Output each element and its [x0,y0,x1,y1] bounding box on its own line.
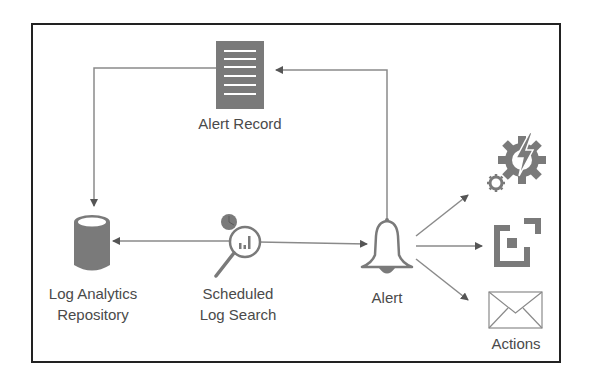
repository-label-line1: Log Analytics [37,283,149,305]
webhook-frame-icon [494,218,541,267]
log-search-label-line2: Log Search [183,304,293,326]
alert-record-label: Alert Record [180,113,300,135]
edge-alert-to-email [416,259,468,300]
automation-gear-lightning-icon [487,132,546,192]
edge-alert-to-record [276,70,387,228]
document-lines-icon [216,41,264,109]
connectors [94,68,482,300]
database-cylinder-icon [74,215,110,271]
diagram-canvas [0,0,592,384]
email-envelope-icon [489,292,542,328]
edge-alert-to-automation [416,195,468,236]
magnifier-chart-clock-icon [216,214,260,276]
repository-label-line2: Repository [37,304,149,326]
log-search-label-line1: Scheduled [183,283,293,305]
edge-record-to-repository [94,68,216,206]
actions-label: Actions [482,333,550,355]
edge-search-to-alert [258,242,367,244]
bell-icon [362,218,412,274]
alert-label: Alert [357,287,417,309]
